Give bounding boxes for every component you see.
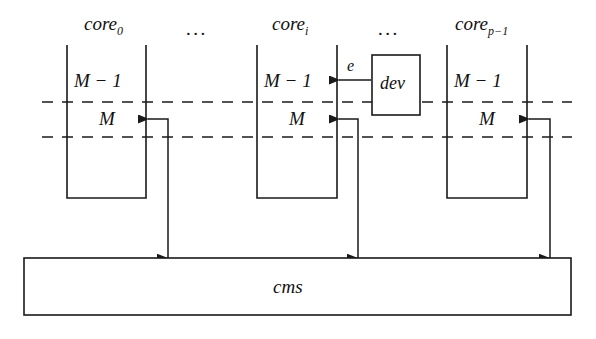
ellipsis-left: ... bbox=[186, 19, 208, 38]
core-i-row-upper: M − 1 bbox=[264, 71, 312, 90]
core-0-label-base: core bbox=[84, 13, 117, 34]
core-0-row-lower: M bbox=[99, 109, 115, 128]
core-i-row-lower: M bbox=[289, 109, 305, 128]
core-p-1-row-upper: M − 1 bbox=[454, 71, 502, 90]
core-p-1-label-base: core bbox=[455, 13, 488, 34]
core-i-flow-arrow bbox=[339, 119, 358, 258]
core-p-1-label-subscript: p−1 bbox=[488, 24, 508, 38]
ellipsis-right: ... bbox=[378, 19, 400, 38]
core-0-row-upper: M − 1 bbox=[74, 71, 122, 90]
event-label-e: e bbox=[347, 58, 354, 74]
core-0-flow-arrow bbox=[148, 119, 168, 258]
core-0-label: core0 bbox=[84, 14, 123, 37]
dev-label: dev bbox=[380, 74, 405, 92]
core-0-label-subscript: 0 bbox=[117, 24, 123, 38]
core-i-label: corei bbox=[272, 14, 308, 37]
core-p-1-row-lower: M bbox=[479, 109, 495, 128]
core-i-label-subscript: i bbox=[305, 24, 308, 38]
cms-label: cms bbox=[273, 277, 303, 296]
diagram-canvas: core0 ... corei ... corep−1 M − 1 M M − … bbox=[0, 0, 596, 339]
core-p-1-label: corep−1 bbox=[455, 14, 508, 37]
core-p-1-flow-arrow bbox=[529, 119, 550, 258]
core-i-label-base: core bbox=[272, 13, 305, 34]
